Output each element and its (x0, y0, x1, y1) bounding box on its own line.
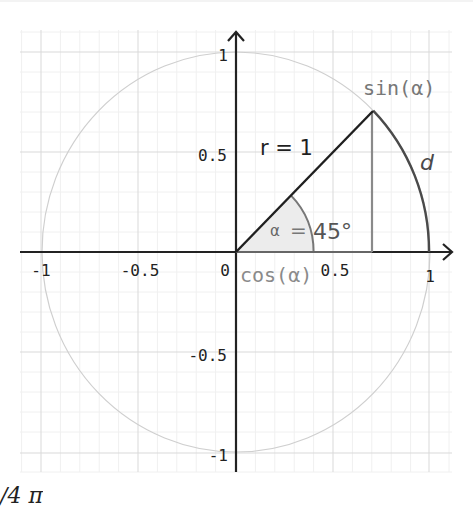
x-tick-label: -1 (31, 261, 50, 280)
arc-d-label: d (420, 150, 435, 175)
cos-label: cos(α) (240, 263, 312, 287)
angle-label-value: 45° (313, 219, 352, 244)
footer-expression: /4 π (0, 484, 43, 508)
unit-circle-diagram: -1 -0.5 0 0.5 1 1 0.5 -0.5 -1 r = 1 sin(… (0, 0, 473, 508)
y-tick-label: -0.5 (188, 346, 227, 365)
y-tick-label: 1 (218, 46, 228, 65)
sin-label: sin(α) (363, 76, 435, 100)
radius-label: r = 1 (260, 136, 313, 160)
angle-label-symbol: α (270, 222, 280, 240)
x-tick-label: 1 (425, 267, 435, 286)
x-tick-label: -0.5 (121, 261, 160, 280)
origin-label: 0 (220, 261, 230, 280)
angle-label-eq: = (290, 218, 307, 242)
y-tick-label: -1 (209, 446, 228, 465)
x-tick-label: 0.5 (321, 261, 350, 280)
y-tick-label: 0.5 (198, 146, 227, 165)
